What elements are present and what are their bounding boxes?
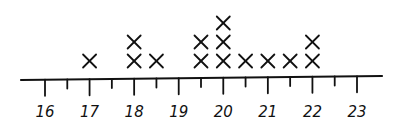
x-mark — [217, 55, 230, 68]
tick-label: 22 — [303, 103, 322, 121]
x-mark — [239, 55, 252, 68]
tick-label: 19 — [169, 103, 188, 121]
x-mark — [195, 36, 208, 49]
x-mark — [217, 17, 230, 30]
tick-label: 18 — [125, 103, 144, 121]
x-mark — [306, 55, 319, 68]
tick-label: 20 — [214, 103, 233, 121]
tick-label: 16 — [35, 103, 54, 121]
x-mark — [150, 55, 163, 68]
axis-tick-labels: 1617181920212223 — [35, 103, 366, 121]
x-mark — [284, 55, 297, 68]
x-mark — [195, 55, 208, 68]
x-mark — [128, 36, 141, 49]
x-mark — [261, 55, 274, 68]
x-mark — [128, 55, 141, 68]
line-plot: 1617181920212223 — [0, 0, 398, 131]
x-mark — [83, 55, 96, 68]
data-marks — [83, 17, 319, 68]
tick-label: 21 — [258, 103, 277, 121]
x-mark — [217, 36, 230, 49]
tick-label: 23 — [347, 103, 366, 121]
tick-label: 17 — [80, 103, 100, 121]
x-mark — [306, 36, 319, 49]
